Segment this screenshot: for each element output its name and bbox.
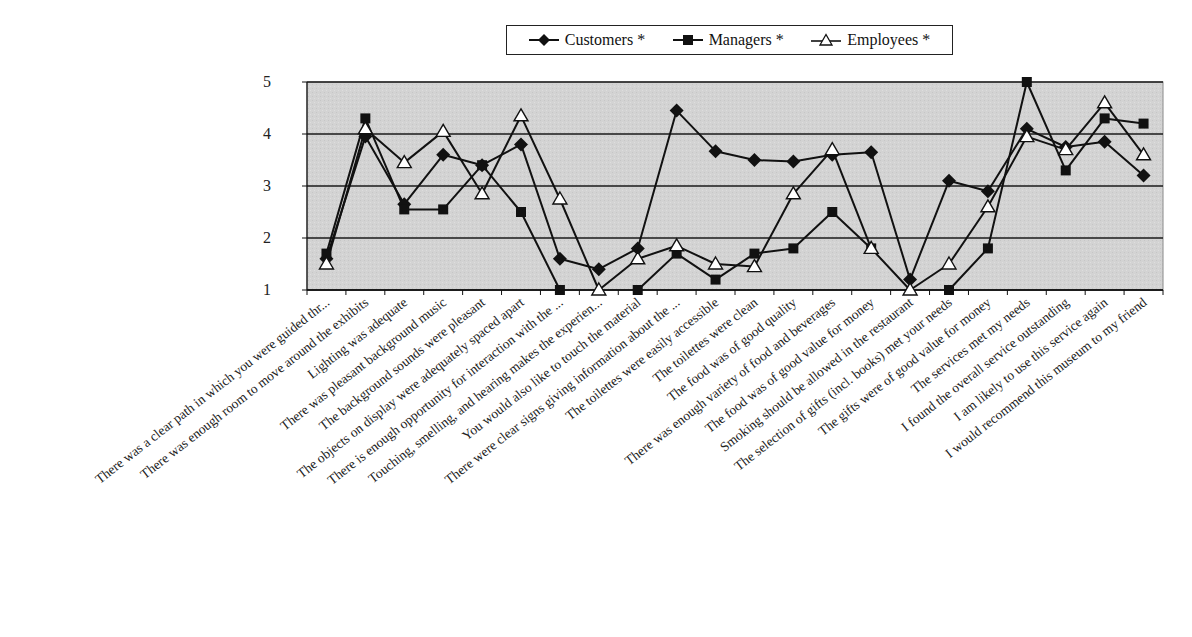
data-point-square [1061,165,1071,175]
triangle-marker-icon [811,33,841,47]
square-marker-icon [673,33,703,47]
data-point-square [1022,77,1032,87]
legend-label: Customers * [565,31,645,49]
line-chart: 12345 There was a clear path in which yo… [0,0,1192,637]
x-category-label: There was a clear path in which you were… [92,295,332,487]
data-point-square [1100,113,1110,123]
data-point-square [555,285,565,295]
legend-label: Employees * [847,31,930,49]
data-point-square [477,160,487,170]
data-point-square [399,204,409,214]
y-tick-label: 5 [263,73,271,90]
y-tick-label: 4 [263,125,271,142]
data-point-square [1139,119,1149,129]
data-point-square [749,249,759,259]
y-axis: 12345 [263,73,307,298]
data-point-square [633,285,643,295]
data-point-square [827,207,837,217]
x-axis: There was a clear path in which you were… [92,290,1163,488]
data-point-square [516,207,526,217]
y-tick-label: 3 [263,177,271,194]
chart-legend: Customers * Managers * Employees * [506,25,953,55]
legend-item-managers: Managers * [673,31,784,49]
y-tick-label: 1 [263,281,271,298]
data-point-square [438,204,448,214]
legend-item-customers: Customers * [529,31,645,49]
data-point-square [983,243,993,253]
data-point-square [944,285,954,295]
data-point-square [711,275,721,285]
legend-item-employees: Employees * [811,31,930,49]
y-tick-label: 2 [263,229,271,246]
legend-label: Managers * [709,31,784,49]
diamond-marker-icon [529,33,559,47]
data-point-square [788,243,798,253]
